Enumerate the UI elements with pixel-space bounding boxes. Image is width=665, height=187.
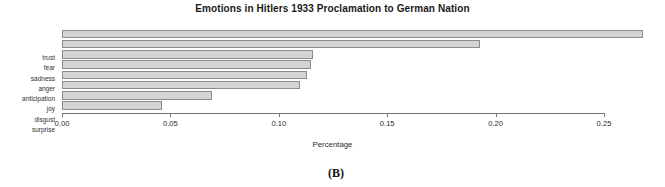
y-axis-label-anticipation: anticipation — [0, 94, 58, 104]
x-axis-tick — [170, 113, 171, 117]
figure-caption: (B) — [0, 166, 665, 181]
bar-disgust — [62, 91, 212, 100]
x-axis-tick — [496, 113, 497, 117]
x-axis: 0.000.050.100.150.200.25 — [0, 113, 665, 139]
bar-row — [62, 91, 657, 101]
y-axis-label-trust: trust — [0, 53, 58, 63]
bars-layer — [62, 29, 657, 111]
x-axis-tick-label: 0.10 — [259, 119, 299, 128]
x-axis-tick-label: 0.00 — [42, 119, 82, 128]
bar-trust — [62, 30, 643, 39]
x-axis-tick — [604, 113, 605, 117]
bar-row — [62, 101, 657, 111]
bar-row — [62, 39, 657, 49]
x-axis-tick-label: 0.25 — [584, 119, 624, 128]
x-axis-title: Percentage — [0, 140, 665, 149]
chart-title: Emotions in Hitlers 1933 Proclamation to… — [0, 3, 665, 14]
y-axis-label-sadness: sadness — [0, 74, 58, 84]
y-axis-label-anger: anger — [0, 84, 58, 94]
bar-fear — [62, 40, 480, 49]
bar-row — [62, 60, 657, 70]
x-axis-tick-label: 0.15 — [367, 119, 407, 128]
y-axis-label-fear: fear — [0, 63, 58, 73]
bar-row — [62, 29, 657, 39]
plot-area: trustfearsadnessangeranticipationjoydisg… — [0, 24, 665, 119]
bar-anger — [62, 60, 311, 69]
x-axis-line — [62, 113, 604, 114]
bar-sadness — [62, 50, 313, 59]
bar-row — [62, 50, 657, 60]
bar-row — [62, 80, 657, 90]
bar-joy — [62, 81, 300, 90]
x-axis-tick-label: 0.05 — [150, 119, 190, 128]
x-axis-tick — [279, 113, 280, 117]
bar-row — [62, 70, 657, 80]
x-axis-tick — [387, 113, 388, 117]
bar-anticipation — [62, 71, 307, 80]
bar-surprise — [62, 101, 162, 110]
x-axis-tick-label: 0.20 — [476, 119, 516, 128]
x-axis-tick — [62, 113, 63, 117]
figure-panel-b: Emotions in Hitlers 1933 Proclamation to… — [0, 0, 665, 187]
